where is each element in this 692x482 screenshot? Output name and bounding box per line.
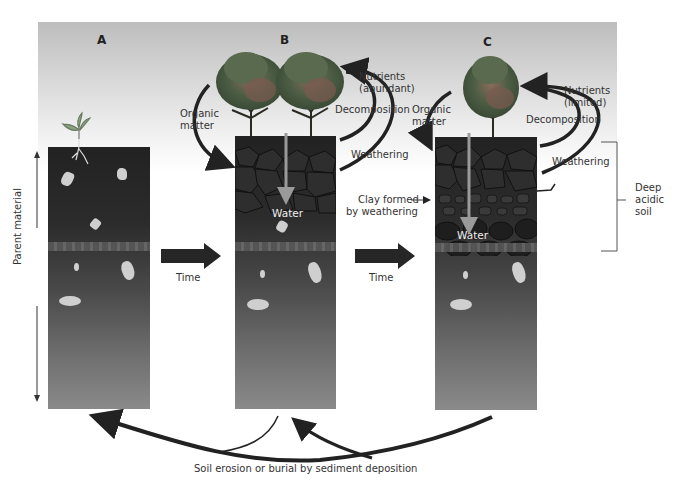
tree-icon xyxy=(463,56,519,137)
tree-icon xyxy=(216,52,284,136)
erosion-arrow-branch-b xyxy=(220,416,278,452)
weathering-label-c: Weathering xyxy=(552,156,610,168)
time-arrow-1 xyxy=(161,243,221,269)
clay-label-1: Clay formed xyxy=(358,194,419,206)
clay-label-2: by weathering xyxy=(346,206,418,218)
seedling-icon xyxy=(63,113,90,164)
deep-soil-label-3: soil xyxy=(635,206,652,218)
deep-soil-label-2: acidic xyxy=(635,194,664,206)
time-arrow-2 xyxy=(355,243,415,269)
parent-material-axis xyxy=(31,151,43,402)
organic-matter-label-b-1: Organic xyxy=(180,108,219,120)
organic-matter-label-c-1: Organic xyxy=(412,104,451,116)
parent-material-label: Parent material xyxy=(12,188,24,265)
nutrients-label-b-2: (abundant) xyxy=(359,83,415,95)
decomposition-label-c: Decomposition xyxy=(526,114,601,126)
tree-icon xyxy=(276,52,344,136)
nutrients-label-c-1: Nutrients xyxy=(564,85,610,97)
root-icon xyxy=(537,184,555,191)
time-label-1: Time xyxy=(176,272,200,284)
organic-matter-label-b-2: matter xyxy=(180,120,214,132)
organic-matter-label-c-2: matter xyxy=(412,116,446,128)
erosion-arrow-long xyxy=(100,417,492,461)
time-label-2: Time xyxy=(369,272,393,284)
erosion-caption: Soil erosion or burial by sediment depos… xyxy=(194,463,417,475)
nutrients-label-b-1: Nutrients xyxy=(359,71,405,83)
weathering-label-b: Weathering xyxy=(351,149,409,161)
nutrients-label-c-2: (limited) xyxy=(564,97,606,109)
diagram-overlay xyxy=(0,0,692,482)
deep-soil-label-1: Deep xyxy=(635,182,661,194)
decomposition-label-b: Decomposition xyxy=(335,104,410,116)
